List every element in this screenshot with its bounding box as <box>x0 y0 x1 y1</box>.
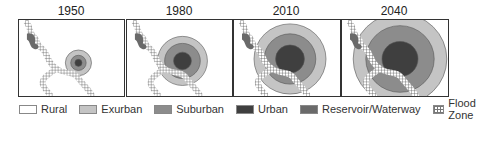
legend-label: Exurban <box>101 103 142 115</box>
flood-zone <box>42 69 56 96</box>
map-panel-2040 <box>341 19 449 97</box>
urban-ring <box>75 59 82 66</box>
flood-zone <box>150 69 164 96</box>
legend-swatch <box>154 105 172 114</box>
legend-item-urban: Urban <box>236 103 288 115</box>
legend-item-rural: Rural <box>19 103 67 115</box>
map-panel-2010 <box>233 19 341 97</box>
map-drawing <box>342 20 448 96</box>
legend-label: Reservoir/Waterway <box>322 103 421 115</box>
legend-swatch <box>19 105 37 114</box>
legend-item-reservoir: Reservoir/Waterway <box>300 103 421 115</box>
legend-label: Suburban <box>176 103 224 115</box>
map-drawing <box>234 20 340 96</box>
legend-item-suburban: Suburban <box>154 103 224 115</box>
urban-ring <box>276 45 305 73</box>
legend-label: Urban <box>258 103 288 115</box>
map-drawing <box>19 20 124 96</box>
legend-label: Rural <box>41 103 67 115</box>
map-panel-1980 <box>126 19 233 97</box>
legend-swatch <box>433 105 445 114</box>
legend-swatch <box>236 105 254 114</box>
panel-title-2010: 2010 <box>233 4 339 18</box>
panel-title-1980: 1980 <box>126 4 232 18</box>
map-panel-1950 <box>18 19 125 97</box>
legend-swatch <box>79 105 97 114</box>
legend-swatch <box>300 105 318 114</box>
legend: Rural Exurban Suburban Urban Reservoir/W… <box>19 102 480 116</box>
panel-title-2040: 2040 <box>341 4 447 18</box>
urban-ring <box>174 52 192 70</box>
legend-label: Flood Zone <box>448 97 480 121</box>
legend-item-exurban: Exurban <box>79 103 142 115</box>
panel-title-1950: 1950 <box>18 4 124 18</box>
map-drawing <box>127 20 232 96</box>
legend-item-flood-zone: Flood Zone <box>433 97 480 121</box>
